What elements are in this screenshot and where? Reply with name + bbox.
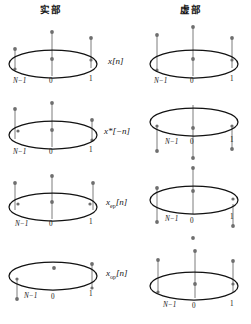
tick-center: 0 [49,148,53,155]
tick-left: N−1 [12,148,26,155]
stems-group [156,249,235,298]
panel-imag-x-n: N−1 0 1 [145,22,247,84]
tick-right: 1 [89,290,93,298]
row-label-x-ep-n-arg: [n] [116,197,128,207]
circular-axis-ellipse [9,262,97,290]
circular-axis-ellipse [9,121,97,149]
row-label-x-n-text: x[n] [108,56,124,66]
tick-left: N−1 [23,292,37,300]
circular-axis-ellipse [150,108,238,136]
tick-right: 1 [89,218,93,226]
tick-left: N−1 [164,215,178,223]
stems-group [155,166,235,240]
tick-center: 0 [49,220,53,228]
panel-real-x-n: N−1 0 1 [4,22,106,84]
tick-center: 0 [190,77,194,84]
tick-center: 0 [51,293,55,301]
tick-left: N−1 [12,77,26,84]
panel-real-x-conj-minus-n: N−1 0 1 [4,93,106,155]
tick-center: 0 [192,302,196,310]
circular-axis-ellipse [150,50,238,78]
column-header-imaginary: 虚部 [180,2,201,16]
panel-real-x-ep-n: N−1 0 1 [4,166,106,228]
figure-canvas: 实部 虚部 x[n] x*[−n] xep[n] xop[n] N−1 0 1 [0,0,251,324]
circular-axis-ellipse [9,50,97,78]
tick-center: 0 [190,217,194,225]
tick-right: 1 [230,213,234,221]
panel-real-x-op-n: N−1 0 1 [4,246,106,316]
row-label-x-op-n: xop[n] [106,268,128,280]
tick-right: 1 [230,75,234,83]
tick-right: 1 [230,300,234,308]
panel-imag-x-op-n: N−1 0 1 [145,246,247,316]
circular-axis-ellipse [9,193,97,221]
circular-axis-ellipse [150,272,238,300]
tick-center: 0 [190,138,194,146]
panel-imag-x-ep-n: N−1 0 1 [145,166,247,244]
column-header-real: 实部 [40,2,61,16]
row-label-x-n: x[n] [108,56,124,66]
row-label-x-ep-n: xep[n] [106,197,127,209]
row-label-x-op-n-arg: [n] [116,268,128,278]
tick-right: 1 [89,75,93,83]
panel-imag-x-conj-minus-n: N−1 0 1 [145,93,247,168]
row-label-x-conj-minus-n-text: x*[−n] [104,126,130,136]
tick-right: 1 [89,146,93,154]
tick-left: N−1 [162,301,176,309]
row-label-x-conj-minus-n: x*[−n] [104,126,130,136]
tick-left: N−1 [14,220,28,228]
tick-center: 0 [49,77,53,84]
tick-left: N−1 [153,77,167,84]
tick-right: 1 [230,136,234,144]
tick-left: N−1 [164,138,178,146]
